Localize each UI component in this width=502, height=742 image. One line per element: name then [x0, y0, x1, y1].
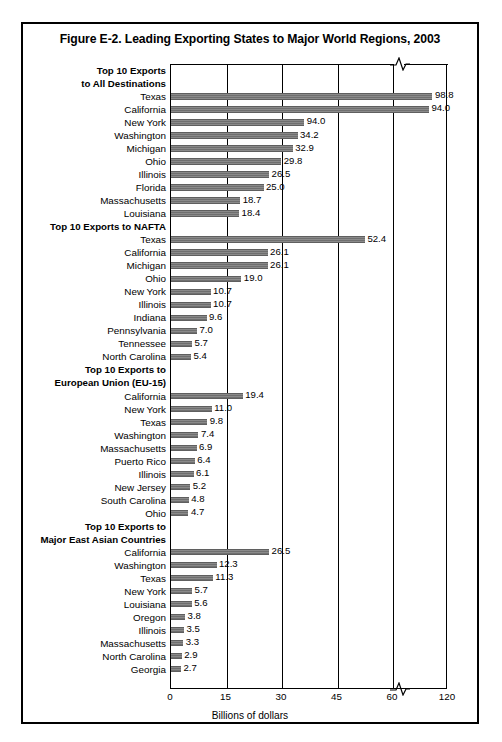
bar-row: 29.8 [171, 155, 446, 168]
bar [171, 627, 184, 633]
bar-value-label: 9.8 [210, 415, 223, 426]
category-label: Pennsylvania [23, 324, 166, 337]
category-label: Massachusetts [23, 637, 166, 650]
x-tick-60: 60 [387, 691, 398, 702]
bar-row: 5.4 [171, 350, 446, 363]
bar [171, 119, 304, 125]
bar-row: 18.7 [171, 194, 446, 207]
bar-row: 5.7 [171, 337, 446, 350]
bar-value-label: 12.3 [219, 558, 238, 569]
bar [171, 249, 268, 255]
bar-value-label: 26.1 [270, 246, 289, 257]
bar-value-label: 5.6 [194, 597, 207, 608]
bar [171, 393, 243, 399]
category-label: Illinois [23, 168, 166, 181]
figure-frame: Figure E-2. Leading Exporting States to … [21, 22, 479, 724]
bar [171, 640, 183, 646]
bar-row: 4.7 [171, 507, 446, 520]
chart-plot-area: 98.894.094.034.232.929.826.525.018.718.4… [170, 64, 447, 689]
category-label: Illinois [23, 624, 166, 637]
bar-value-label: 9.6 [209, 311, 222, 322]
bar [171, 106, 429, 112]
bar [171, 262, 268, 268]
bar-value-label: 3.3 [186, 636, 199, 647]
bar-value-label: 5.2 [193, 480, 206, 491]
bar [171, 432, 198, 438]
bar-value-label: 3.8 [188, 610, 201, 621]
bar-row: 2.7 [171, 663, 446, 676]
bar-rows: 98.894.094.034.232.929.826.525.018.718.4… [171, 64, 446, 688]
bar-row: 26.1 [171, 259, 446, 272]
x-tick-120: 120 [439, 691, 455, 702]
x-tick-30: 30 [276, 691, 287, 702]
category-label: Texas [23, 90, 166, 103]
category-label: Tennessee [23, 337, 166, 350]
category-label: Michigan [23, 259, 166, 272]
bar [171, 484, 190, 490]
bar [171, 315, 207, 321]
bar-value-label: 32.9 [295, 142, 314, 153]
bar-row: 3.3 [171, 637, 446, 650]
group-header-2-line-1: European Union (EU-15) [23, 376, 166, 389]
category-label: Indiana [23, 311, 166, 324]
bar-value-label: 29.8 [284, 155, 303, 166]
bar-row: 10.7 [171, 285, 446, 298]
group-header-0-line-1: to All Destinations [23, 77, 166, 90]
bar-row: 10.7 [171, 298, 446, 311]
bar-value-label: 25.0 [266, 181, 285, 192]
bar [171, 458, 195, 464]
group-header-3-line-0: Top 10 Exports to [23, 520, 166, 533]
bar [171, 302, 211, 308]
category-label: New Jersey [23, 481, 166, 494]
category-label: California [23, 546, 166, 559]
bar-row: 19.0 [171, 272, 446, 285]
bar [171, 341, 192, 347]
category-label: Georgia [23, 663, 166, 676]
bar-row: 26.5 [171, 546, 446, 559]
bar-row: 26.5 [171, 168, 446, 181]
category-label: Washington [23, 429, 166, 442]
bar-value-label: 4.7 [191, 506, 204, 517]
bar-value-label: 5.7 [195, 337, 208, 348]
category-label: New York [23, 585, 166, 598]
bar-value-label: 10.7 [213, 298, 232, 309]
bar-value-label: 94.0 [431, 102, 450, 113]
bar-row: 4.8 [171, 494, 446, 507]
category-label-column: Top 10 Exportsto All DestinationsTexasCa… [23, 64, 168, 689]
bar-row: 6.1 [171, 468, 446, 481]
bar-value-label: 26.5 [272, 168, 291, 179]
bar-row: 18.4 [171, 207, 446, 220]
category-label: Florida [23, 181, 166, 194]
category-label: Texas [23, 572, 166, 585]
bar [171, 328, 197, 334]
bar-value-label: 6.4 [197, 454, 210, 465]
category-label: California [23, 390, 166, 403]
bar [171, 614, 185, 620]
bar [171, 145, 293, 151]
figure-title: Figure E-2. Leading Exporting States to … [23, 32, 477, 46]
bar [171, 575, 213, 581]
bar-row: 6.4 [171, 455, 446, 468]
bar [171, 197, 240, 203]
x-axis-ticks: 015304560120 [170, 691, 447, 707]
category-label: North Carolina [23, 650, 166, 663]
bar [171, 184, 264, 190]
bar-row: 3.8 [171, 611, 446, 624]
category-label: Illinois [23, 468, 166, 481]
bar [171, 276, 241, 282]
bar-row: 7.0 [171, 324, 446, 337]
category-label: Louisiana [23, 207, 166, 220]
bar-value-label: 6.9 [199, 441, 212, 452]
bar [171, 354, 191, 360]
bar-row: 98.8 [171, 90, 446, 103]
bar [171, 601, 192, 607]
category-label: Washington [23, 559, 166, 572]
bar-row: 19.4 [171, 390, 446, 403]
bar [171, 93, 432, 99]
bar-value-label: 19.4 [245, 389, 264, 400]
bar [171, 132, 298, 138]
bar-row: 6.9 [171, 442, 446, 455]
category-label: New York [23, 403, 166, 416]
bar-row: 25.0 [171, 181, 446, 194]
bar-value-label: 18.4 [242, 207, 261, 218]
